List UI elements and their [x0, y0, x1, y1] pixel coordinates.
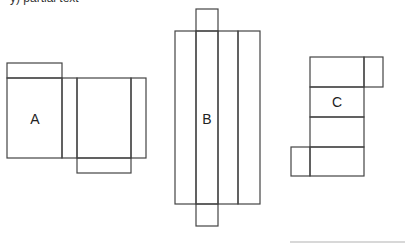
nets-diagram: A B C	[0, 0, 405, 243]
net-c-label: C	[332, 94, 342, 110]
net-c	[291, 57, 383, 176]
net-b-label: B	[202, 111, 211, 127]
net-a-label: A	[30, 111, 40, 127]
net-a	[7, 63, 146, 173]
net-b	[175, 9, 260, 226]
